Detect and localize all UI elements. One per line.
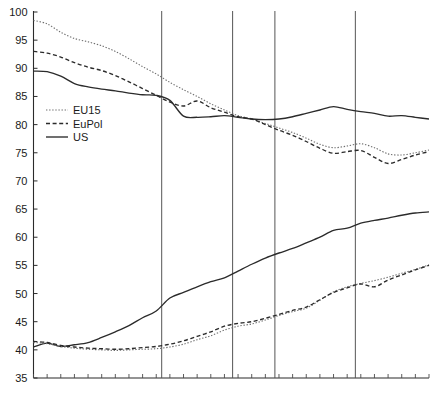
y-axis-group: 10095908580757065605550454035: [9, 6, 37, 384]
y-axis-ticks: [34, 12, 38, 378]
series-line-eupol-lower: [34, 265, 430, 349]
legend-label-us: US: [73, 131, 88, 143]
y-tick-label: 100: [9, 6, 27, 18]
y-tick-label: 65: [15, 203, 27, 215]
vertical-reference-lines: [162, 11, 356, 378]
legend-item-eu15: EU15: [46, 104, 101, 116]
chart-canvas: 10095908580757065605550454035 EU15 EuPol…: [0, 0, 431, 393]
y-tick-label: 75: [15, 147, 27, 159]
y-tick-label: 50: [15, 288, 27, 300]
legend-label-eu15: EU15: [73, 104, 101, 116]
y-tick-label: 95: [15, 34, 27, 46]
legend-label-eupol: EuPol: [73, 118, 102, 130]
y-tick-label: 80: [15, 119, 27, 131]
series-line-us-lower: [34, 212, 430, 347]
legend-item-us: US: [46, 131, 88, 143]
line-chart: 10095908580757065605550454035 EU15 EuPol…: [0, 0, 431, 393]
legend-item-eupol: EuPol: [46, 118, 102, 130]
y-tick-label: 35: [15, 372, 27, 384]
y-tick-label: 60: [15, 231, 27, 243]
y-tick-label: 40: [15, 344, 27, 356]
y-tick-label: 90: [15, 62, 27, 74]
y-tick-label: 70: [15, 175, 27, 187]
chart-legend: EU15 EuPol US: [46, 104, 102, 143]
x-axis-group: [34, 374, 430, 378]
series-line-eu15-lower: [34, 265, 430, 351]
y-tick-label: 45: [15, 316, 27, 328]
y-axis-tick-labels: 10095908580757065605550454035: [9, 6, 27, 384]
x-axis-ticks: [34, 374, 430, 378]
y-tick-label: 55: [15, 259, 27, 271]
y-tick-label: 85: [15, 90, 27, 102]
series-paths-group: [34, 20, 430, 350]
